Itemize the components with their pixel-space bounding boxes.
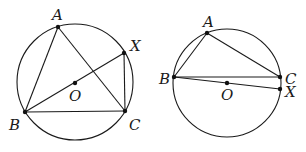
point-b <box>23 110 27 114</box>
point-x <box>278 87 282 91</box>
figure-right: ABCXO <box>158 13 297 137</box>
point-o <box>225 81 229 85</box>
segment-ac <box>207 33 280 77</box>
geometry-diagram: ABCXO ABCXO <box>0 0 306 152</box>
segment-bc <box>25 111 125 112</box>
segment-ab <box>174 33 207 77</box>
label-x: X <box>284 83 297 101</box>
point-b <box>172 75 176 79</box>
label-b: B <box>8 116 20 134</box>
label-a: A <box>201 13 214 31</box>
figure-left: ABCXO <box>8 6 142 140</box>
segment-ab <box>25 27 58 112</box>
label-x: X <box>129 37 142 55</box>
point-o <box>73 81 77 85</box>
segment-xc <box>124 53 125 111</box>
label-b: B <box>158 70 170 88</box>
label-o: O <box>221 86 233 104</box>
point-c <box>278 75 282 79</box>
label-a: A <box>50 6 63 24</box>
point-a <box>205 31 209 35</box>
point-c <box>123 109 127 113</box>
label-c: C <box>129 116 141 134</box>
point-a <box>56 25 60 29</box>
label-o: O <box>69 87 81 105</box>
point-x <box>122 51 126 55</box>
